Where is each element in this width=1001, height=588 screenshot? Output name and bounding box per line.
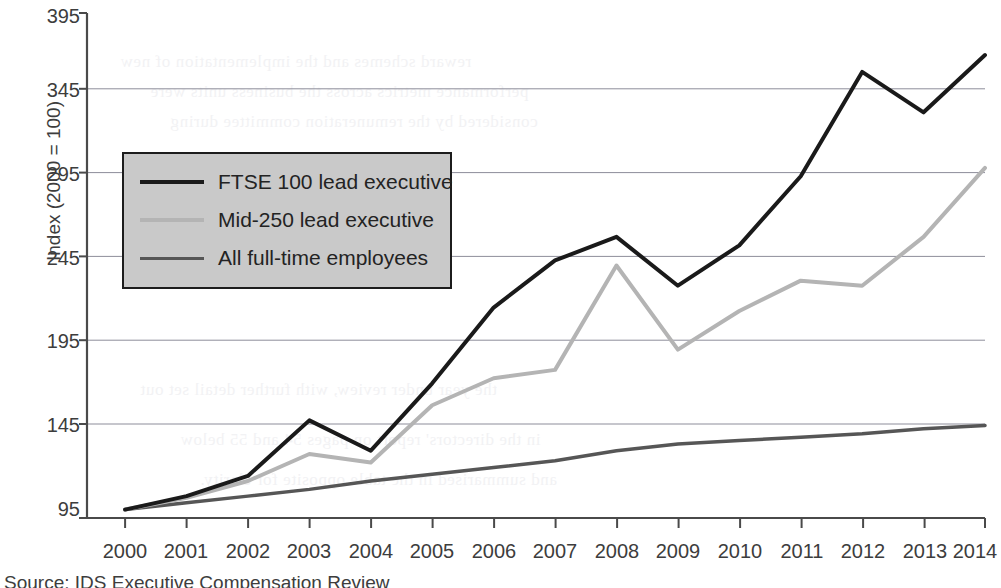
x-tick-label-2014: 2014 (950, 541, 1000, 561)
legend-swatch-icon-ftse (140, 180, 204, 184)
x-tick-label-2007: 2007 (526, 541, 584, 561)
x-tick-label-2008: 2008 (588, 541, 646, 561)
x-tick-label-2005: 2005 (403, 541, 461, 561)
legend-item-ftse-100-lead-executive: FTSE 100 lead executive (140, 163, 434, 201)
legend-swatch-icon-mid250 (140, 218, 204, 222)
legend-label-allemployees: All full-time employees (218, 246, 428, 270)
x-tick-label-2009: 2009 (649, 541, 707, 561)
legend-item-all-full-time-employees: All full-time employees (140, 239, 434, 277)
y-axis-ticks (79, 13, 87, 518)
x-tick-label-2000: 2000 (96, 541, 154, 561)
legend-label-mid250: Mid-250 lead executive (218, 208, 434, 232)
plot-area (0, 0, 1001, 588)
legend-item-mid-250-lead-executive: Mid-250 lead executive (140, 201, 434, 239)
x-tick-label-2002: 2002 (219, 541, 277, 561)
chart-legend: FTSE 100 lead executive Mid-250 lead exe… (122, 152, 452, 289)
x-tick-label-2004: 2004 (342, 541, 400, 561)
source-note: Source: IDS Executive Compensation Revie… (4, 572, 389, 588)
legend-swatch-icon-allemployees (140, 257, 204, 260)
legend-label-ftse: FTSE 100 lead executive (218, 170, 453, 194)
x-tick-label-2013: 2013 (896, 541, 954, 561)
chart-figure: reward schemes and the implementation of… (0, 0, 1001, 588)
x-tick-label-2010: 2010 (711, 541, 769, 561)
series-line-all-full-time-employees (125, 425, 985, 509)
x-tick-label-2006: 2006 (465, 541, 523, 561)
x-tick-label-2011: 2011 (773, 541, 831, 561)
x-tick-label-2003: 2003 (280, 541, 338, 561)
x-axis-ticks (125, 518, 985, 528)
x-tick-label-2001: 2001 (157, 541, 215, 561)
x-tick-label-2012: 2012 (834, 541, 892, 561)
